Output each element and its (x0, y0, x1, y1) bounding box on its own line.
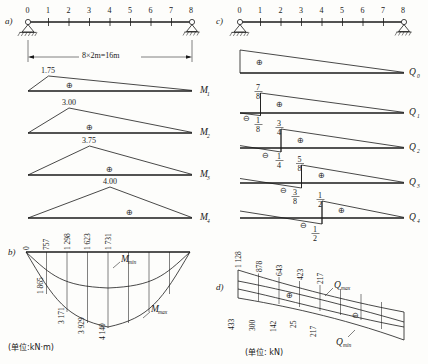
q-bottom-value-0: 433 (227, 319, 236, 331)
node-label-c-2: 2 (279, 6, 283, 15)
moment-envelope-diagram: M min M max 0 757 1 298 1 623 1 731 1 86… (8, 233, 190, 352)
panel-c-label: c) (216, 16, 223, 26)
q2-label: Q (409, 142, 416, 152)
q-top-value-0: 1 128 (234, 251, 243, 268)
q4-pos-numerator: 1 (318, 191, 322, 200)
q-bottom-value-4: 217 (309, 326, 318, 338)
node-label-c-0: 0 (238, 6, 242, 15)
q4-neg-denominator: 2 (313, 234, 317, 243)
q-max-label: Q (334, 280, 341, 290)
q-top-value-2: 643 (275, 265, 284, 277)
m2-label-sub: 2 (207, 133, 210, 139)
m2-plus-sign: ⊕ (86, 123, 93, 132)
node-label-1: 1 (46, 6, 50, 15)
m1-plus-sign: ⊕ (66, 81, 73, 90)
q2-label-sub: 2 (417, 148, 420, 154)
node-label-2: 2 (67, 6, 71, 15)
q4-pos-denominator: 2 (318, 200, 322, 209)
influence-line-m2: 3.00 ⊕ M 2 (28, 98, 210, 139)
m4-plus-sign: ⊕ (126, 208, 133, 217)
m3-label-sub: 3 (206, 175, 210, 181)
m-min-value-1: 757 (42, 239, 51, 251)
m-min-value-2: 1 298 (63, 233, 72, 250)
q2-minus-sign: ⊖ (262, 151, 269, 160)
m-min-value-4: 1 731 (104, 233, 113, 250)
m1-label-sub: 1 (207, 91, 210, 97)
node-label-c-6: 6 (361, 6, 365, 15)
q1-neg-denominator: 8 (256, 125, 260, 134)
q2-pos-denominator: 4 (277, 128, 281, 137)
q4-minus-sign: ⊖ (300, 221, 307, 230)
node-label-7: 7 (169, 6, 173, 15)
span-dimension: 8×2m=16m (28, 40, 192, 62)
m3-plus-sign: ⊕ (106, 165, 113, 174)
q-envelope-plus-sign: ⊕ (286, 291, 293, 300)
influence-line-q4: 1 2 ⊕ ⊖ 1 2 Q 4 (240, 191, 420, 243)
influence-line-m3: 3.75 ⊕ M 3 (28, 136, 210, 181)
q-min-label-sub: min (343, 342, 352, 348)
q-bottom-value-2: 142 (269, 321, 278, 333)
q1-minus-sign: ⊖ (243, 114, 250, 123)
influence-line-m4: 4.00 ⊕ M 4 (28, 177, 210, 224)
m2-peak-value: 3.00 (62, 98, 76, 107)
q3-neg-numerator: 3 (293, 188, 297, 197)
q-max-label-sub: max (341, 285, 351, 291)
q3-neg-denominator: 8 (293, 197, 297, 206)
m-max-value-1: 1 865 (36, 277, 45, 294)
q2-pos-numerator: 3 (277, 119, 281, 128)
q3-pos-denominator: 8 (298, 164, 302, 173)
m-max-value-3: 3 929 (77, 317, 86, 334)
m3-peak-value: 3.75 (82, 136, 96, 145)
m-max-value-4: 4 140 (98, 323, 107, 340)
moment-unit-caption: (单位:kN·m) (8, 342, 54, 352)
influence-line-q1: 7 8 ⊕ ⊖ 1 8 Q 1 (240, 83, 420, 134)
q3-minus-sign: ⊖ (280, 186, 287, 195)
beam-diagram-c: 0 1 2 3 4 5 6 7 8 (230, 6, 412, 36)
influence-line-q0: ⊕ Q 0 (240, 50, 420, 79)
q3-plus-sign: ⊕ (318, 171, 325, 180)
m-max-value-2: 3 171 (57, 307, 66, 324)
figure-svg: a) 0 1 2 3 4 5 6 7 8 (0, 0, 428, 364)
node-label-8: 8 (189, 6, 193, 15)
m-min-label-sub: min (128, 259, 137, 265)
m-max-label-sub: max (158, 309, 168, 315)
q-top-value-3: 423 (296, 269, 305, 281)
q4-neg-numerator: 1 (313, 225, 317, 234)
q4-label: Q (409, 212, 416, 222)
m4-peak-value: 4.00 (103, 177, 117, 186)
q1-pos-numerator: 7 (256, 83, 260, 92)
q3-pos-numerator: 5 (298, 155, 302, 164)
shear-envelope-diagram: 1 128 878 643 423 217 433 300 142 25 217… (227, 251, 404, 357)
q-top-value-4: 217 (316, 273, 325, 285)
q-min-label: Q (336, 337, 343, 347)
node-label-5: 5 (128, 6, 132, 15)
influence-line-m1: 1.75 ⊕ M 1 (28, 66, 210, 97)
panel-d-label: d) (216, 282, 224, 292)
q-top-value-1: 878 (255, 261, 264, 273)
influence-line-q2: 3 4 ⊕ ⊖ 1 4 Q 2 (240, 119, 420, 170)
q-bottom-value-3: 25 (289, 320, 298, 328)
node-label-c-1: 1 (258, 6, 262, 15)
q4-label-sub: 4 (417, 218, 420, 224)
node-label-0: 0 (26, 6, 30, 15)
node-label-c-5: 5 (340, 6, 344, 15)
influence-line-q3: 5 8 ⊕ ⊖ 3 8 Q 3 (240, 155, 420, 206)
q0-plus-sign: ⊕ (256, 58, 263, 67)
q4-plus-sign: ⊕ (338, 206, 345, 215)
m1-peak-value: 1.75 (41, 66, 55, 75)
q1-plus-sign: ⊕ (276, 100, 283, 109)
node-label-6: 6 (149, 6, 153, 15)
node-label-4: 4 (108, 6, 112, 15)
q3-label-sub: 3 (416, 183, 420, 189)
q1-label-sub: 1 (417, 113, 420, 119)
panel-a-label: a) (5, 16, 13, 26)
shear-unit-caption: (单位: kN) (245, 347, 283, 357)
q-bottom-value-1: 300 (248, 320, 257, 332)
node-label-c-7: 7 (381, 6, 385, 15)
node-label-c-8: 8 (401, 6, 405, 15)
span-dimension-text: 8×2m=16m (82, 51, 120, 60)
node-label-c-4: 4 (320, 6, 324, 15)
m4-label-sub: 4 (207, 218, 210, 224)
q1-label: Q (409, 107, 416, 117)
node-label-c-3: 3 (299, 6, 303, 15)
